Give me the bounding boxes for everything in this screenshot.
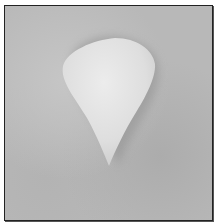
photo-frame [4, 5, 213, 221]
petal-graphic [5, 6, 212, 220]
petal [63, 38, 155, 166]
